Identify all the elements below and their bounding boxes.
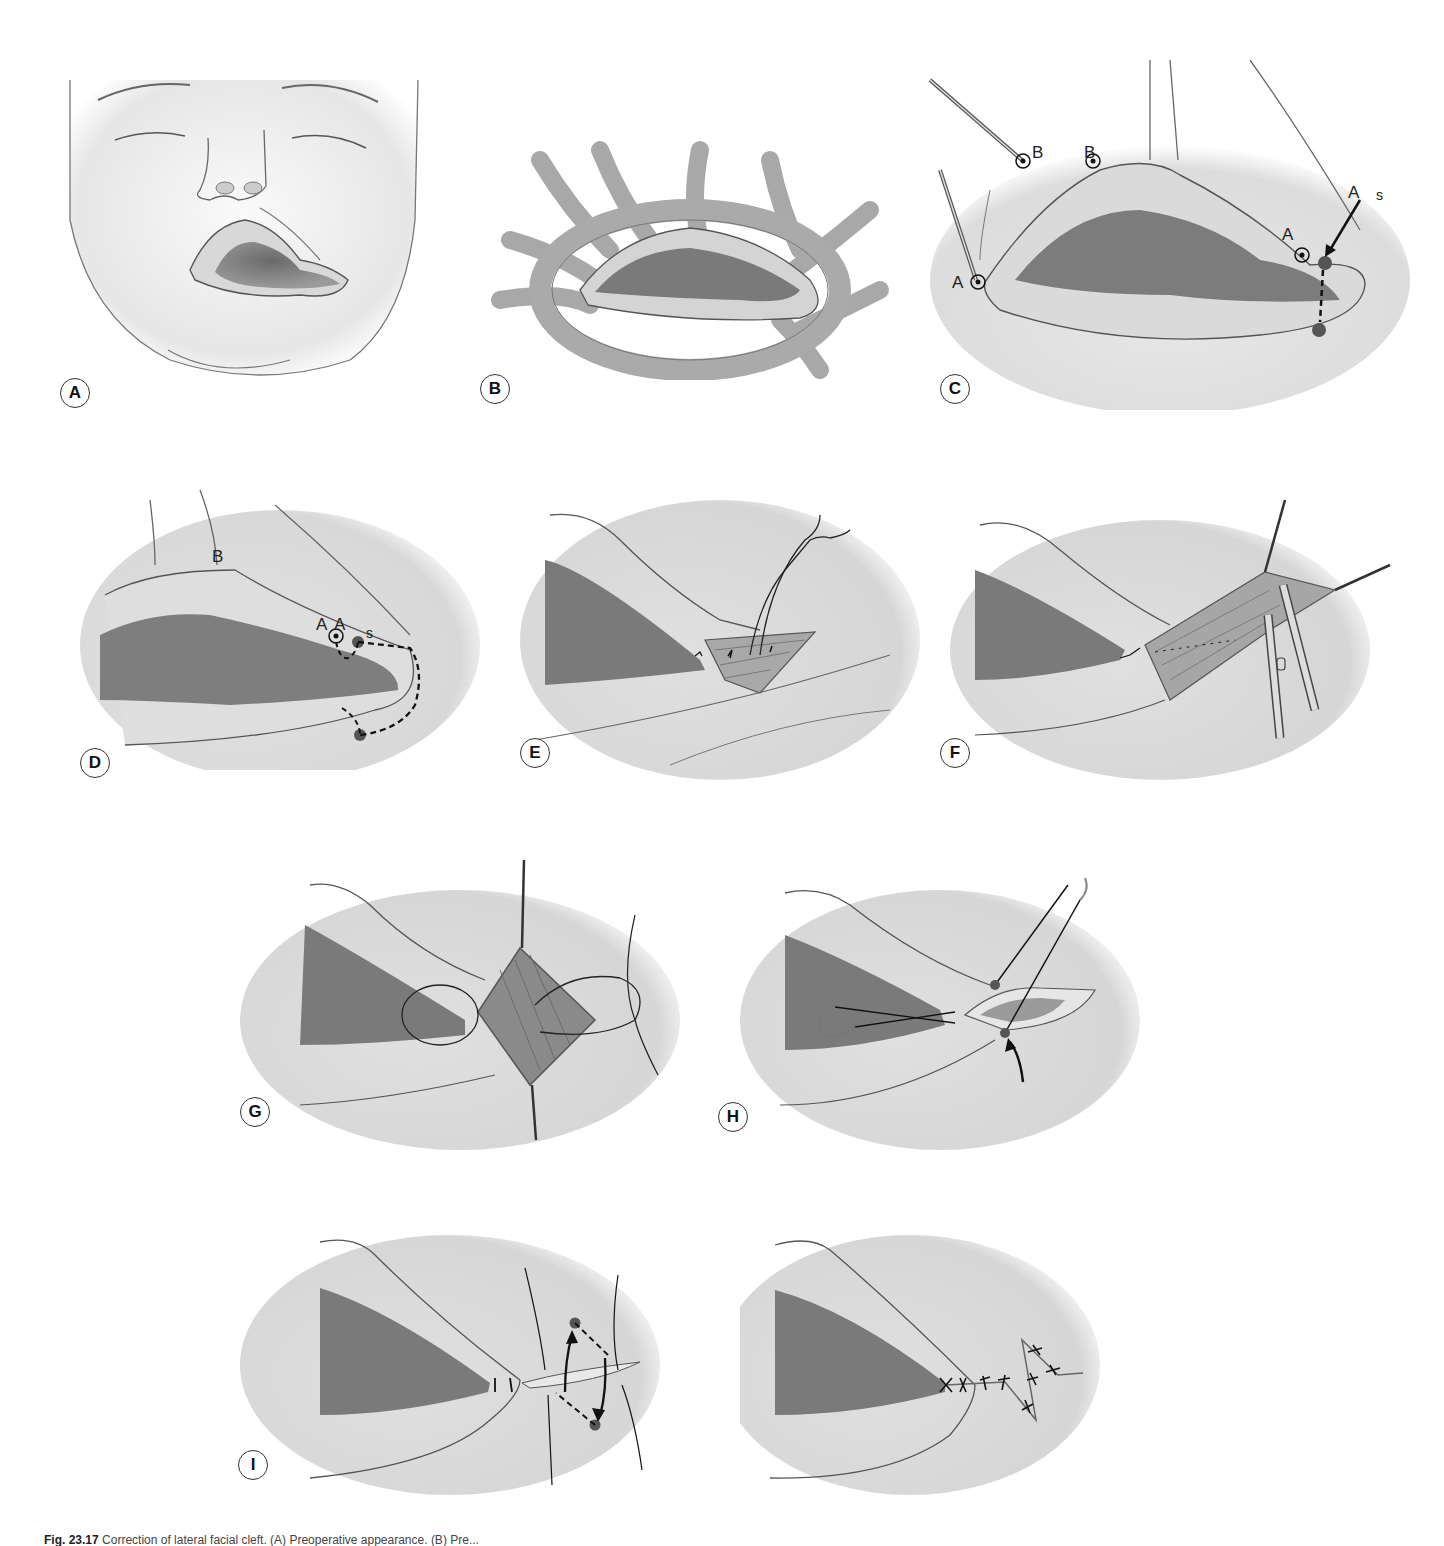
mucosal-suture-illustration <box>520 480 920 780</box>
panel-h-vermilion-suture: H <box>740 860 1160 1160</box>
point-label-b: B <box>212 547 223 566</box>
point-label-b-left: B <box>1032 143 1043 162</box>
panel-label-b: B <box>480 374 510 404</box>
face-illustration <box>60 60 460 410</box>
overlap-suture-illustration <box>240 860 720 1160</box>
panel-label-c: C <box>940 374 970 404</box>
panel-label-f: F <box>940 738 970 768</box>
panel-label-d: D <box>80 748 110 778</box>
point-label-s: s <box>366 625 373 641</box>
point-label-s: s <box>1376 187 1383 203</box>
point-label-a-2: A <box>334 615 346 634</box>
panel-c-markings: B B A A A s C <box>920 60 1420 410</box>
muscle-illustration <box>480 140 900 380</box>
panel-label-i: I <box>238 1450 268 1480</box>
z-plasty-illustration <box>240 1220 720 1500</box>
panel-g-muscle-overlap-suture: G <box>240 860 720 1160</box>
panel-label-g: G <box>240 1097 270 1127</box>
incision-illustration: B A A s <box>80 470 480 770</box>
point-label-a-left: A <box>952 273 964 292</box>
figure-number: Fig. 23.17 <box>44 1533 99 1546</box>
panel-e-mucosal-closure: E <box>520 480 920 780</box>
panel-label-a: A <box>60 378 90 408</box>
figure-caption: Fig. 23.17 Correction of lateral facial … <box>44 1533 1424 1546</box>
panel-a-preoperative-face: A <box>60 60 460 410</box>
vermilion-suture-illustration <box>740 860 1160 1160</box>
final-closure-illustration <box>740 1220 1140 1500</box>
point-label-a-1: A <box>316 615 328 634</box>
panel-i-z-plasty-design: I <box>240 1220 720 1500</box>
dissection-illustration <box>940 480 1420 780</box>
markings-illustration: B B A A A s <box>920 60 1420 410</box>
panel-label-e: E <box>520 738 550 768</box>
panel-label-h: H <box>718 1102 748 1132</box>
point-label-a-right: A <box>1348 183 1360 202</box>
point-label-b-right: B <box>1084 143 1095 162</box>
panel-j-final-closure <box>740 1220 1140 1500</box>
panel-f-muscle-dissection: F <box>940 480 1420 780</box>
point-label-a-mid: A <box>1282 225 1294 244</box>
panel-d-incision-design: B A A s D <box>80 470 480 790</box>
panel-b-orbicularis-muscle: B <box>480 140 900 410</box>
caption-text: Correction of lateral facial cleft. (A) … <box>102 1533 479 1546</box>
